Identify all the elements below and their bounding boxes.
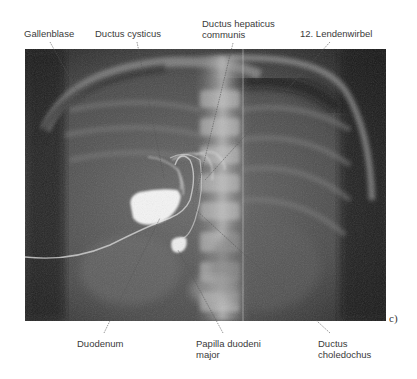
label-ductus-cysticus: Ductus cysticus <box>95 28 161 39</box>
label-ductus-choledochus: Ductus choledochus <box>318 338 371 360</box>
xray-image <box>0 0 417 379</box>
label-papilla-duodeni-major: Papilla duodeni major <box>196 338 261 360</box>
panel-letter: c) <box>389 312 398 324</box>
label-duodenum: Duodenum <box>77 338 123 349</box>
label-lendenwirbel-12: 12. Lendenwirbel <box>300 28 372 39</box>
label-gallenblase: Gallenblase <box>24 28 74 39</box>
label-ductus-hepaticus-communis: Ductus hepaticus communis <box>202 18 275 40</box>
